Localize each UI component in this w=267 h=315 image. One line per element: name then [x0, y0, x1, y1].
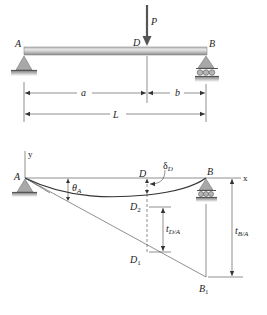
dimension-label-l: L: [112, 109, 119, 120]
loaded-beam-diagram: P A D B a b: [11, 5, 219, 122]
point-label-a: A: [14, 38, 22, 49]
delta-leader: [150, 170, 165, 184]
delta-label: δD: [163, 160, 173, 173]
dimension-label-a: a: [81, 87, 86, 98]
point-label-d: D: [132, 37, 141, 48]
y-axis-label: y: [28, 149, 33, 159]
roller-support-icon: [195, 56, 219, 82]
beam-deflection-diagram: P A D B a b: [0, 0, 267, 315]
theta-arrow-up-icon: [66, 179, 70, 183]
t-da-label: tD/A: [166, 223, 181, 236]
t-ba-label: tB/A: [235, 225, 249, 238]
dimension-label-b: b: [175, 87, 180, 98]
deflection-diagram: y x A D B θA: [12, 149, 249, 296]
theta-arrow-down-icon: [66, 197, 70, 201]
point-label-b1: B1: [199, 283, 209, 296]
point-label-a-lower: A: [13, 171, 21, 182]
x-axis-label: x: [243, 173, 248, 183]
pin-support-icon: [11, 56, 37, 76]
point-label-d-lower: D: [138, 168, 147, 179]
beam: [24, 47, 207, 55]
point-label-d1: D1: [129, 254, 141, 267]
load-label: P: [150, 16, 157, 27]
point-label-d2: D2: [129, 201, 141, 214]
elastic-curve: [25, 178, 206, 197]
point-label-b-lower: B: [207, 166, 213, 177]
point-label-b: B: [209, 38, 215, 49]
